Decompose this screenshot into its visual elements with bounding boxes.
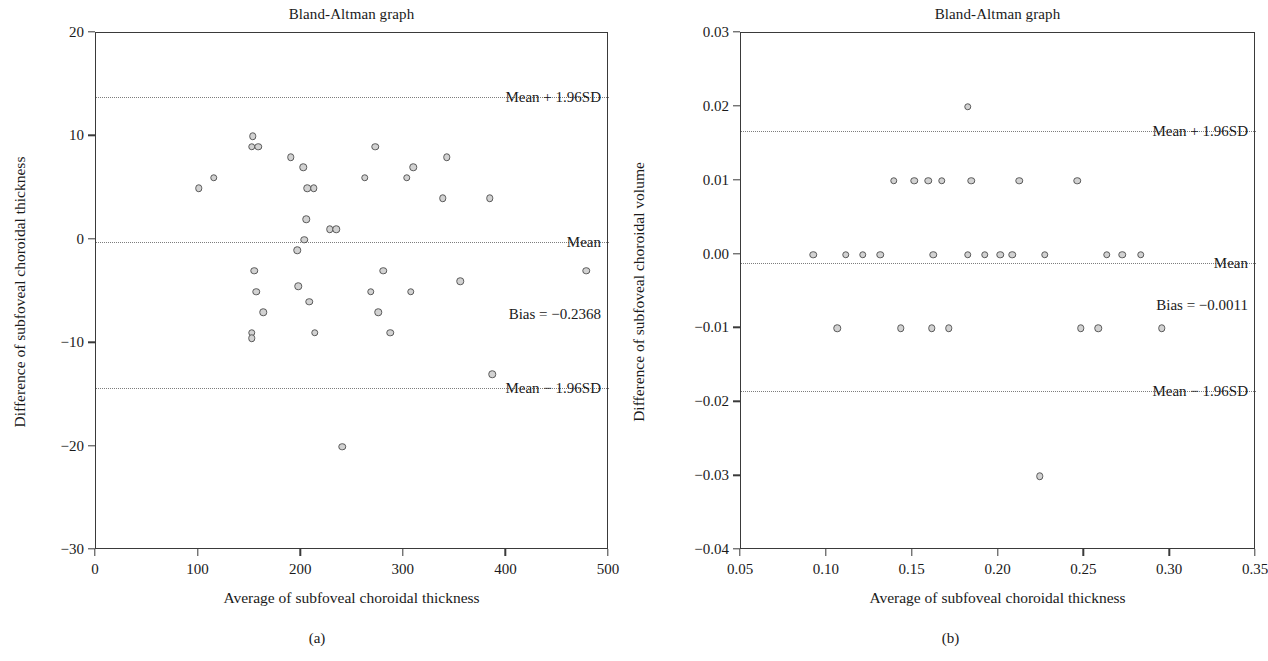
panel-b-plot-frame: Mean + 1.96SDMeanBias = −0.0011Mean − 1.… [740,32,1255,549]
panel-a-xtick-mark [94,549,95,556]
panel-b-xtick-mark [1254,549,1255,556]
data-point [303,215,311,223]
panel-b-annotation-0: Mean + 1.96SD [1152,123,1248,140]
data-point [294,283,302,291]
data-point [387,329,395,337]
panel-b-xtick-label: 0.35 [1242,561,1268,578]
panel-b-ytick-mark [733,327,740,328]
data-point [195,184,203,192]
panel-b-title: Bland-Altman graph [740,6,1255,23]
panel-b-ytick-mark [733,401,740,402]
panel-a-ytick-label: 10 [22,127,84,144]
data-point [1041,251,1049,259]
panel-a-xtick-label: 300 [392,561,415,578]
panel-a-xtick-mark [402,549,403,556]
panel-b-ytick-mark [733,179,740,180]
data-point [583,267,591,275]
panel-a-ytick-label: −10 [22,334,84,351]
panel-b-ytick-label: 0.02 [667,97,729,114]
data-point [924,177,932,185]
data-point [306,298,314,306]
data-point [842,251,850,259]
panel-b-xtick-mark [1083,549,1084,556]
panel-b-annotation-1: Mean [1214,254,1248,271]
panel-b-xtick-mark [997,549,998,556]
panel-b-refline-mean_bias [741,263,1256,264]
data-point [809,251,817,259]
data-point [890,177,898,185]
panel-a-xtick-label: 500 [597,561,620,578]
panel-b-y-axis-label: Difference of subfoveal choroidal volume [630,32,648,552]
panel-a-annotation-3: Mean − 1.96SD [505,379,601,396]
panel-b-annotation-3: Mean − 1.96SD [1152,383,1248,400]
panel-a-xtick-mark [197,549,198,556]
panel-b-xtick-label: 0.30 [1156,561,1182,578]
panel-a-ytick-mark [88,31,95,32]
data-point [1103,251,1111,259]
panel-b-ytick-label: −0.01 [667,319,729,336]
panel-b-xtick-label: 0.25 [1070,561,1096,578]
panel-a-refline-mean_bias [96,242,609,243]
panel-b-caption: (b) [634,630,1267,647]
panel-a-title: Bland-Altman graph [95,6,608,23]
panel-b-xtick-label: 0.20 [984,561,1010,578]
data-point [407,288,415,296]
panel-b-x-axis-label: Average of subfoveal choroidal thickness [740,589,1255,607]
data-point [443,153,451,161]
panel-a-xtick-mark [505,549,506,556]
data-point [403,174,411,182]
data-point [1074,177,1082,185]
data-point [911,177,919,185]
panel-b-ytick-mark [733,474,740,475]
panel-a-xtick-label: 200 [289,561,312,578]
panel-a-plot-frame: Mean + 1.96SDMeanBias = −0.2368Mean − 1.… [95,32,608,549]
panel-a-xtick-label: 100 [186,561,209,578]
panel-b-xtick-label: 0.10 [813,561,839,578]
panel-b-ytick-label: 0.00 [667,245,729,262]
data-point [310,184,318,192]
panel-a-ytick-label: 0 [22,230,84,247]
data-point [248,334,256,342]
panel-a-ytick-label: −20 [22,437,84,454]
data-point [897,325,905,333]
data-point [967,177,975,185]
data-point [930,251,938,259]
panel-b-xtick-label: 0.05 [727,561,753,578]
data-point [250,267,258,275]
data-point [210,174,218,182]
panel-a-xtick-mark [607,549,608,556]
data-point [1077,325,1085,333]
data-point [287,153,295,161]
panel-b-ytick-label: 0.01 [667,171,729,188]
panel-a-xtick-mark [299,549,300,556]
data-point [439,195,447,203]
panel-b-ytick-mark [733,253,740,254]
panel-b: Bland-Altman graph Difference of subfove… [634,0,1267,661]
data-point [409,164,417,172]
data-point [876,251,884,259]
data-point [1137,251,1145,259]
data-point [833,325,841,333]
data-point [456,277,464,285]
data-point [938,177,946,185]
data-point [1036,472,1044,480]
panel-b-ytick-label: −0.03 [667,467,729,484]
data-point [1008,251,1016,259]
panel-b-xtick-mark [825,549,826,556]
panel-b-ytick-mark [733,105,740,106]
panel-a-xtick-label: 0 [91,561,99,578]
data-point [249,133,257,141]
panel-b-xtick-mark [739,549,740,556]
data-point [300,164,308,172]
panel-b-xtick-mark [911,549,912,556]
panel-a: Bland-Altman graph Difference of subfove… [0,0,634,661]
panel-b-xtick-label: 0.15 [899,561,925,578]
data-point [488,370,496,378]
data-point [1094,325,1102,333]
panel-a-annotation-1: Mean [567,234,601,251]
panel-a-xtick-label: 400 [494,561,517,578]
data-point [928,325,936,333]
panel-b-ytick-mark [733,31,740,32]
panel-b-ytick-label: 0.03 [667,24,729,41]
panel-b-plot-area: Mean + 1.96SDMeanBias = −0.0011Mean − 1.… [741,33,1254,548]
